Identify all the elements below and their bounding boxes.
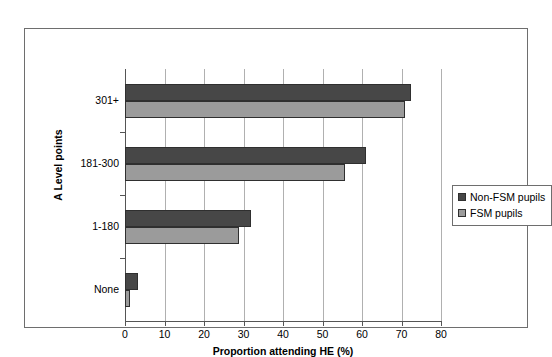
x-axis-tick xyxy=(165,321,166,326)
x-axis-tick xyxy=(402,321,403,326)
x-gridline xyxy=(441,69,442,321)
bar-non-fsm-pupils-181-300 xyxy=(125,147,366,164)
bar-fsm-pupils-1-180 xyxy=(125,227,239,244)
bar-non-fsm-pupils-1-180 xyxy=(125,210,251,227)
chart-legend: Non-FSM pupilsFSM pupils xyxy=(452,185,552,226)
bar-non-fsm-pupils-none xyxy=(125,273,138,290)
y-axis-category-label: 1-180 xyxy=(49,220,119,232)
y-axis-category-label: 301+ xyxy=(49,94,119,106)
bar-fsm-pupils-none xyxy=(125,290,130,307)
x-axis-tick xyxy=(441,321,442,326)
plot-area xyxy=(125,69,441,321)
x-axis-title: Proportion attending HE (%) xyxy=(125,345,441,357)
chart-figure-frame: A Level points 301+181-3001-180None Prop… xyxy=(24,28,528,328)
y-axis-category-label: 181-300 xyxy=(49,157,119,169)
y-axis-category-labels: 301+181-3001-180None xyxy=(45,69,119,321)
bar-fsm-pupils-301- xyxy=(125,101,405,118)
x-axis-tick-label: 30 xyxy=(229,328,259,340)
legend-item: FSM pupils xyxy=(458,206,546,220)
x-axis-tick-label: 70 xyxy=(387,328,417,340)
x-axis-tick xyxy=(362,321,363,326)
legend-swatch-non-fsm-icon xyxy=(458,193,466,201)
x-axis-tick-label: 10 xyxy=(150,328,180,340)
y-axis-tick xyxy=(120,132,125,133)
legend-item-label: Non-FSM pupils xyxy=(470,191,545,203)
legend-item-label: FSM pupils xyxy=(470,207,523,219)
x-axis-tick-label: 20 xyxy=(189,328,219,340)
x-axis-tick-label: 0 xyxy=(110,328,140,340)
x-axis-tick xyxy=(204,321,205,326)
x-axis-tick xyxy=(125,321,126,326)
legend-swatch-fsm-icon xyxy=(458,209,466,217)
x-axis-tick-label: 60 xyxy=(347,328,377,340)
x-axis-tick xyxy=(283,321,284,326)
x-axis-tick xyxy=(244,321,245,326)
x-axis-tick-label: 50 xyxy=(308,328,338,340)
y-axis-category-label: None xyxy=(49,283,119,295)
bar-fsm-pupils-181-300 xyxy=(125,164,345,181)
legend-item: Non-FSM pupils xyxy=(458,190,546,204)
y-axis-tick xyxy=(120,258,125,259)
x-axis-tick-label: 80 xyxy=(426,328,456,340)
y-axis-tick xyxy=(120,195,125,196)
x-axis-tick-label: 40 xyxy=(268,328,298,340)
bar-non-fsm-pupils-301- xyxy=(125,84,411,101)
x-axis-tick xyxy=(323,321,324,326)
